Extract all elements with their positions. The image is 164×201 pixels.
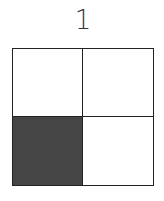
figure-number: 1 [0,5,164,35]
cell-bottom-right [83,117,153,185]
grid-2x2 [12,48,154,186]
cell-bottom-left-filled [13,117,83,185]
cell-top-right [83,49,153,117]
cell-top-left [13,49,83,117]
